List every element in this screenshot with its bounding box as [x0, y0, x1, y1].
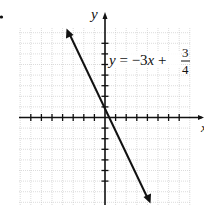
equation-text: y = −3x +	[107, 52, 166, 68]
graph: y x y = −3x + 3 4	[0, 0, 204, 224]
fraction-numerator: 3	[182, 45, 189, 60]
fraction-denominator: 4	[182, 62, 189, 77]
line-arrow-up-icon	[66, 29, 74, 39]
y-axis-label: y	[89, 6, 98, 22]
x-axis	[19, 115, 204, 120]
problem-number-marker	[0, 15, 3, 18]
y-axis-arrow-icon	[103, 12, 108, 19]
equation-label: y = −3x + 3 4	[107, 45, 190, 77]
x-axis-label: x	[200, 120, 204, 135]
